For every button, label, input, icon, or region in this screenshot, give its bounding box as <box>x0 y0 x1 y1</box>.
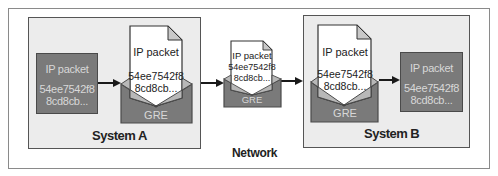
system-a-gre-envelope: IP packet 54ee7542f8 8cd8cb... GRE <box>121 26 192 123</box>
letter-title: IP packet <box>232 50 272 61</box>
letter-hex-line2: 8cd8cb... <box>135 82 178 94</box>
envelope-label: GRE <box>242 94 263 105</box>
letter-hex-line1: 54ee7542f8 <box>317 68 373 80</box>
diagram-graphics: IP packet 54ee7542f8 8cd8cb... GRE IP pa… <box>0 0 498 176</box>
letter-fold-corner <box>168 26 182 40</box>
letter-hex-line2: 8cd8cb... <box>324 80 367 92</box>
letter-fold-corner <box>263 41 272 50</box>
letter-fold-corner <box>357 25 371 39</box>
letter-title: IP packet <box>322 46 368 58</box>
letter-hex-line1: 54ee7542f8 <box>128 70 184 82</box>
letter-hex-line2: 8cd8cb... <box>234 73 271 83</box>
envelope-label: GRE <box>144 109 168 121</box>
letter-title: IP packet <box>133 46 179 58</box>
letter-hex-line1: 54ee7542f8 <box>228 62 276 72</box>
system-b-gre-envelope: IP packet 54ee7542f8 8cd8cb... GRE <box>311 25 378 122</box>
in-transit-gre-envelope: IP packet 54ee7542f8 8cd8cb... GRE <box>224 41 281 107</box>
envelope-label: GRE <box>333 107 357 119</box>
